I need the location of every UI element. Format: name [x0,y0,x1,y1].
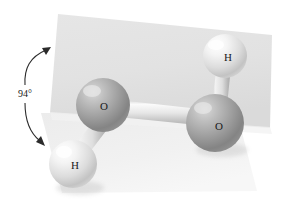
angle-arc-upper [25,50,46,85]
specular-highlight-icon [56,146,72,158]
specular-highlight-icon [83,85,101,97]
atom-o-right: O [186,94,244,152]
atom-label-h-bottom: H [71,159,79,171]
atom-h-top: H [203,34,247,78]
atom-label-o-right: O [215,120,223,132]
molecule-figure: H O O H [0,0,290,209]
atom-o-left: O [76,78,130,132]
molecule-svg: H O O H [0,0,290,209]
angle-value-label: 94° [18,88,32,99]
specular-highlight-icon [208,40,224,50]
specular-highlight-icon [194,102,212,114]
angle-arc-lower [25,103,40,141]
atom-label-h-top: H [224,51,232,63]
atom-h-bottom: H [49,140,97,188]
arrowhead-lower-icon [36,136,45,146]
atom-label-o-left: O [100,100,108,112]
